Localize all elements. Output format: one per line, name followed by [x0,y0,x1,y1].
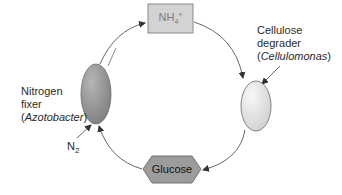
fixer-paren-close: ) [83,111,87,123]
ammonium-label: NH4+ [148,11,193,25]
ammonium-label-main: NH [159,11,175,23]
fixer-line2: fixer [21,98,87,111]
pointer-fixer-label [108,48,116,66]
n2-label: N2 [67,140,79,155]
fixer-organism: Azotobacter [25,111,84,123]
arrow-fixer-to-ammonium [100,23,145,64]
n2-sub: 2 [75,146,79,155]
pointer-degrader-label [262,66,280,84]
degrader-organism: Cellulomonas [261,50,328,62]
n2-main: N [67,140,75,152]
fixer-line1: Nitrogen [21,85,87,98]
arrow-degrader-to-glucose [203,130,245,170]
arrow-ammonium-to-degrader [194,22,243,78]
arrow-glucose-to-fixer [99,126,142,169]
degrader-line1: Cellulose [257,24,331,37]
arrow-n2-to-fixer [77,125,91,138]
glucose-text: Glucose [152,163,192,175]
ammonium-label-sup: + [178,11,182,18]
degrader-organism-line: (Cellulomonas) [257,50,331,63]
glucose-label: Glucose [143,163,201,175]
degrader-paren-close: ) [327,50,331,62]
ammonium-label-sub: 4 [174,18,178,25]
cellulose-degrader-label: Cellulose degrader (Cellulomonas) [257,24,331,63]
fixer-organism-line: (Azotobacter) [21,111,87,124]
degrader-line2: degrader [257,37,331,50]
cellulose-degrader-cell [241,81,271,131]
nitrogen-fixer-label: Nitrogen fixer (Azotobacter) [21,85,87,124]
